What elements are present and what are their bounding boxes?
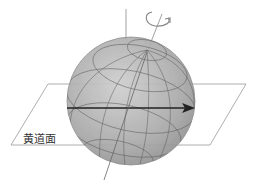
celestial-sphere-diagram [0,0,255,189]
ecliptic-plane-label: 黄道面 [23,130,56,146]
sphere [67,37,195,165]
